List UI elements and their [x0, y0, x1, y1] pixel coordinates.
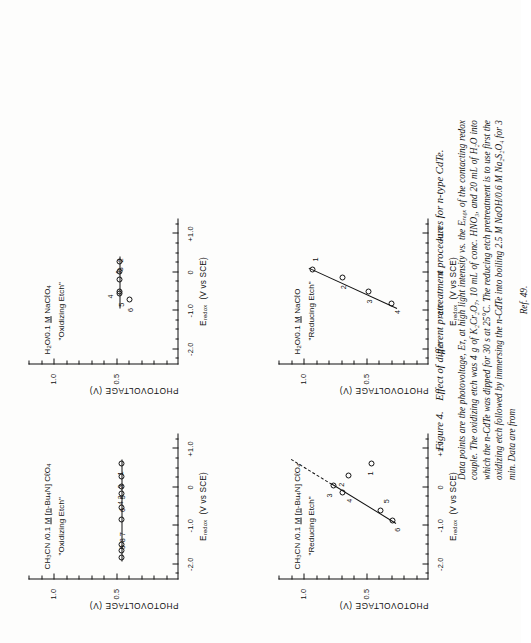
panel-top-right: -2.0-1.00+1.00.51.0123456Eredox (V vs SC…: [14, 201, 254, 406]
data-point-label: 5: [117, 302, 126, 306]
data-point-label: 4: [392, 310, 401, 314]
x-axis-minor-tick: [425, 261, 429, 262]
x-axis-tick: [422, 232, 428, 233]
y-axis-minor-tick: [28, 361, 29, 365]
figure-caption-text: Data points are the photovoltage, Eᴛ, at…: [456, 120, 531, 480]
figure-number: Figure 4.: [434, 411, 445, 450]
data-point: [126, 296, 132, 302]
y-axis-minor-tick: [128, 361, 129, 365]
y-axis-minor-tick: [153, 576, 154, 580]
x-axis-minor-tick: [425, 300, 429, 301]
x-axis-minor-tick: [425, 476, 429, 477]
fit-line: [308, 267, 397, 308]
x-axis-minor-tick: [425, 505, 429, 506]
y-axis-minor-tick: [391, 361, 392, 365]
y-axis-minor-tick: [328, 361, 329, 365]
x-axis-tick-label: 0: [185, 485, 194, 489]
panel-etch-label: "Oxidizing Etch": [56, 282, 65, 340]
y-axis-title: PHOTOVOLTAGE (V): [339, 385, 428, 394]
x-axis-minor-tick: [175, 438, 179, 439]
data-point-label: 6: [125, 307, 134, 311]
data-point: [345, 472, 351, 478]
x-axis-minor-tick: [425, 328, 429, 329]
x-axis-minor-tick: [425, 252, 429, 253]
x-axis-minor-tick: [425, 338, 429, 339]
y-axis-tick: [303, 358, 304, 364]
y-axis-minor-tick: [403, 576, 404, 580]
x-axis-tick: [172, 232, 178, 233]
y-axis-minor-tick: [78, 576, 79, 580]
data-point-label: 6: [392, 527, 401, 531]
panel-electrolyte-label: H2O/0.1 M NaCℓO4: [42, 285, 51, 354]
data-point: [330, 482, 336, 488]
x-axis-tick-label: -2.0: [185, 342, 194, 356]
x-axis-minor-tick: [425, 515, 429, 516]
data-point-label: 1: [310, 257, 319, 261]
x-axis-tick: [172, 486, 178, 487]
panel-etch-label: "Reducing Etch": [306, 496, 315, 555]
x-axis-minor-tick: [175, 495, 179, 496]
y-axis-tick-label: 0.5: [111, 373, 120, 384]
y-axis-minor-tick: [141, 576, 142, 580]
x-axis-tick-label: 0: [185, 270, 194, 274]
caption-reference: Ref. 49.: [518, 120, 530, 480]
data-point: [377, 507, 383, 513]
data-point-label: 2: [338, 285, 347, 289]
x-axis-minor-tick: [425, 357, 429, 358]
data-point-label: 3: [365, 299, 374, 303]
data-point-label: 1: [366, 471, 375, 475]
x-axis-minor-tick: [425, 457, 429, 458]
x-axis-tick: [422, 309, 428, 310]
y-axis-minor-tick: [91, 576, 92, 580]
x-axis-tick: [422, 447, 428, 448]
x-axis-tick: [172, 348, 178, 349]
x-axis-tick-label: 0: [435, 485, 444, 489]
y-axis-title: PHOTOVOLTAGE (V): [339, 600, 428, 609]
y-axis-tick-label: 0.5: [111, 588, 120, 599]
x-axis-minor-tick: [175, 261, 179, 262]
x-axis-tick: [172, 309, 178, 310]
x-axis-minor-tick: [175, 280, 179, 281]
x-axis-minor-tick: [175, 223, 179, 224]
x-axis-minor-tick: [175, 252, 179, 253]
y-axis-tick-label: 1.0: [299, 588, 308, 599]
x-axis-tick: [422, 271, 428, 272]
panel-electrolyte-label: CH3CN /0.1 M [n-Bu4N] CℓO4: [42, 463, 51, 569]
data-point-label: 4: [344, 498, 353, 502]
x-axis-tick-label: +1.0: [185, 226, 194, 241]
x-axis-minor-tick: [425, 223, 429, 224]
x-axis-minor-tick: [175, 572, 179, 573]
x-axis-minor-tick: [175, 534, 179, 535]
data-point: [365, 288, 371, 294]
x-axis-title-symbol: Eredox: [448, 519, 457, 540]
x-axis-tick-label: -1.0: [185, 518, 194, 532]
y-axis-tick-label: 1.0: [49, 373, 58, 384]
data-point-label: 2: [116, 258, 125, 262]
x-axis-minor-tick: [175, 543, 179, 544]
data-point: [118, 460, 124, 466]
y-axis-tick-label: 1.0: [49, 588, 58, 599]
x-axis-minor-tick: [175, 338, 179, 339]
data-point: [339, 274, 345, 280]
x-axis-minor-tick: [425, 280, 429, 281]
x-axis-tick: [422, 563, 428, 564]
data-point: [309, 266, 315, 272]
data-point-label: 6: [118, 507, 127, 511]
data-point: [339, 489, 345, 495]
data-point: [116, 290, 122, 296]
x-axis-minor-tick: [175, 515, 179, 516]
data-point: [118, 483, 124, 489]
y-axis-minor-tick: [103, 576, 104, 580]
data-point: [116, 276, 122, 282]
y-axis-tick-label: 1.0: [299, 373, 308, 384]
y-axis-minor-tick: [141, 361, 142, 365]
y-axis-minor-tick: [278, 361, 279, 365]
y-axis-minor-tick: [341, 361, 342, 365]
y-axis-minor-tick: [103, 361, 104, 365]
y-axis-minor-tick: [416, 576, 417, 580]
x-axis-title-symbol: Eredox: [198, 519, 207, 540]
data-point-label: 3: [116, 267, 125, 271]
x-axis-minor-tick: [175, 328, 179, 329]
y-axis-minor-tick: [328, 576, 329, 580]
